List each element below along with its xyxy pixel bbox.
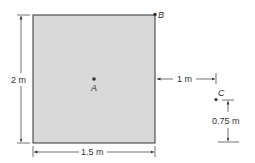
label-c: C	[218, 88, 225, 98]
point-b	[153, 13, 157, 17]
horizontal-offset-dimension: 1 m	[157, 73, 216, 84]
point-a	[92, 77, 96, 81]
vertical-offset-dimension: 0.75 m	[212, 100, 240, 142]
point-c	[214, 98, 217, 101]
height-dimension: 2 m	[11, 15, 30, 143]
width-dimension: 1.5 m	[33, 146, 155, 157]
label-b: B	[158, 10, 164, 20]
width-label: 1.5 m	[81, 147, 104, 157]
label-a: A	[90, 83, 97, 93]
vertical-offset-label: 0.75 m	[212, 116, 240, 126]
height-label: 2 m	[11, 75, 26, 85]
horizontal-offset-label: 1 m	[177, 74, 192, 84]
diagram-canvas: A B C 2 m 1.5 m 1 m 0.75 m	[0, 0, 255, 163]
